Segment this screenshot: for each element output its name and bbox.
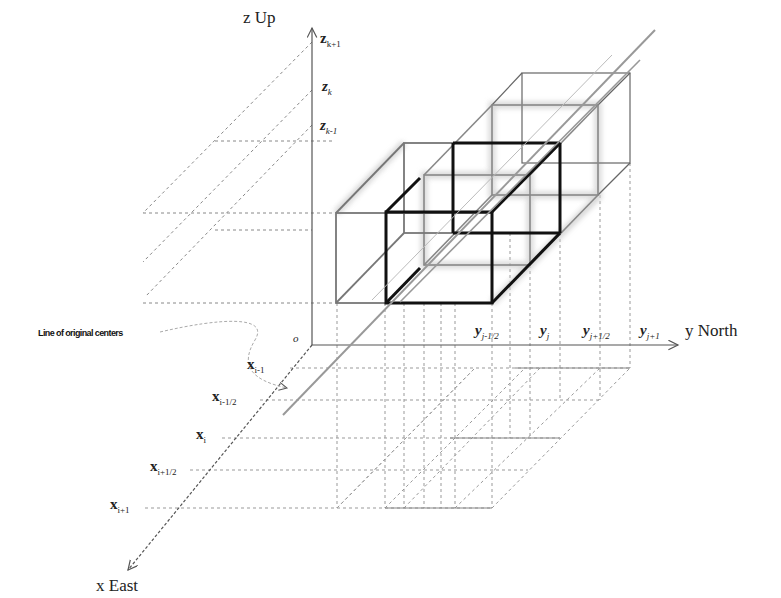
y-axis-label: y North xyxy=(685,321,737,341)
z-axis-label: z Up xyxy=(243,8,276,28)
z-tick-k: zk xyxy=(322,78,332,97)
x-tick-i-plus-half: xi+1/2 xyxy=(150,458,177,477)
line-of-original-centers xyxy=(283,30,655,415)
annotation-arrow xyxy=(160,321,287,388)
x-axis-label: x East xyxy=(96,576,138,596)
x-tick-i-minus-1: xi-1 xyxy=(247,356,265,375)
y-tick-j: yj xyxy=(540,322,549,341)
z-tick-k-plus-1: zk+1 xyxy=(320,30,341,49)
z-tick-k-minus-1: zk-1 xyxy=(320,117,337,136)
center-lines xyxy=(283,30,655,415)
y-tick-j-plus-half: yj+1/2 xyxy=(583,322,610,341)
origin-label: o xyxy=(293,332,299,344)
x-tick-i-minus-half: xi-1/2 xyxy=(212,388,237,407)
x-tick-i-plus-1: xi+1 xyxy=(110,496,130,515)
staggered-grid-diagram: z Up y North x East o zk+1 zk zk-1 yj-1/… xyxy=(0,0,781,598)
y-tick-j-plus-1: yj+1 xyxy=(640,322,660,341)
annotation-line-of-original-centers: Line of original centers xyxy=(38,328,123,338)
zx-plane-dotted-grid xyxy=(143,42,335,303)
x-tick-i: xi xyxy=(196,426,206,445)
y-tick-j-minus-half: yj-1/2 xyxy=(475,322,499,341)
